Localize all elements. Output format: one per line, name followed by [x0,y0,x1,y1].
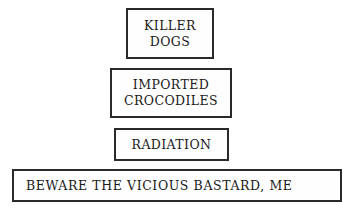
sign-line: DOGS [144,34,196,50]
sign-text: RADIATION [132,137,212,153]
sign-imported-crocodiles: IMPORTED CROCODILES [110,68,232,118]
sign-radiation: RADIATION [114,128,229,161]
sign-line: IMPORTED [124,77,218,93]
sign-killer-dogs: KILLER DOGS [126,8,214,59]
sign-text: KILLER DOGS [144,18,196,50]
sign-beware-the-vicious-bastard: BEWARE THE VICIOUS BASTARD, ME [12,169,342,202]
sign-text: IMPORTED CROCODILES [124,77,218,109]
sign-line: CROCODILES [124,93,218,109]
sign-text: BEWARE THE VICIOUS BASTARD, ME [26,178,293,194]
sign-line: KILLER [144,18,196,34]
sign-line: BEWARE THE VICIOUS BASTARD, ME [26,178,293,194]
sign-line: RADIATION [132,137,212,153]
